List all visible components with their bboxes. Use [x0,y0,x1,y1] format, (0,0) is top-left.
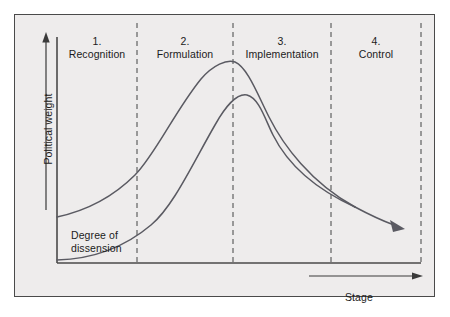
x-axis-arrow [309,272,423,279]
dissension-annotation-line-1: Degree of [71,229,122,242]
stage-4-name: Control [331,48,421,61]
x-axis-title: Stage [345,291,373,303]
y-axis-title: Political weight [42,74,54,184]
stage-1-number: 1. [57,35,137,48]
stage-label-1: 1. Recognition [57,35,137,60]
stage-1-name: Recognition [57,48,137,61]
dissension-annotation: Degree of dissension [71,229,122,254]
diagram-root: 1. Recognition 2. Formulation 3. Impleme… [0,0,450,317]
stage-2-name: Formulation [137,48,233,61]
stage-3-name: Implementation [233,48,331,61]
political-weight-curve [57,61,355,217]
stage-2-number: 2. [137,35,233,48]
stage-label-2: 2. Formulation [137,35,233,60]
stage-label-4: 4. Control [331,35,421,60]
decline-arrow [355,207,405,232]
stage-4-number: 4. [331,35,421,48]
dissension-annotation-line-2: dissension [71,242,122,255]
figure-frame: 1. Recognition 2. Formulation 3. Impleme… [14,14,435,297]
stage-label-3: 3. Implementation [233,35,331,60]
stage-3-number: 3. [233,35,331,48]
